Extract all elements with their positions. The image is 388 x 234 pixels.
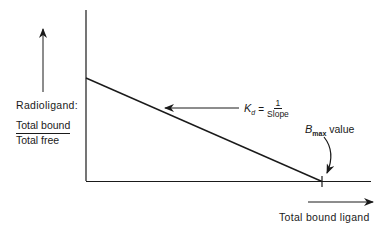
- kd-numerator: 1: [274, 99, 283, 109]
- kd-denominator: Slope: [267, 109, 289, 119]
- x-axis-title: Total bound ligand: [279, 211, 370, 224]
- bmax-pointer-arrow-icon: [324, 137, 331, 173]
- y-axis-title: Radioligand:: [16, 99, 78, 112]
- kd-equals: =: [258, 104, 264, 115]
- kd-symbol: Kd: [244, 102, 255, 116]
- y-axis-ratio-denominator: Total free: [16, 134, 59, 147]
- y-axis-ratio-numerator: Total bound: [16, 119, 70, 134]
- bmax-annotation: Bmax value: [305, 123, 354, 137]
- bmax-subscript: max: [312, 130, 326, 137]
- scatchard-plot: [0, 0, 388, 234]
- kd-annotation: Kd = 1 Slope: [244, 99, 289, 119]
- bmax-suffix: value: [326, 123, 354, 135]
- regression-line: [86, 78, 322, 182]
- kd-fraction: 1 Slope: [267, 99, 289, 119]
